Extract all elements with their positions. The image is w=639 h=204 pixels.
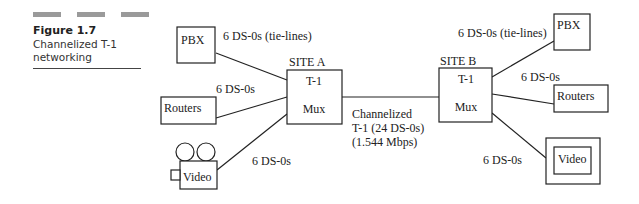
video-link-label-a: 6 DS-0s [252, 154, 291, 168]
network-diagram: PBX 6 DS-0s (tie-lines) Routers 6 DS-0s … [0, 0, 639, 204]
video-label-a: Video [183, 170, 212, 184]
trunk-label-line3: (1.544 Mbps) [352, 135, 417, 149]
link-pbx-a [216, 53, 287, 80]
routers-link-label-a: 6 DS-0s [216, 82, 255, 96]
routers-label-b: Routers [557, 89, 595, 103]
mux-a-line2: Mux [303, 102, 326, 116]
pbx-link-label-a: 6 DS-0s (tie-lines) [223, 29, 312, 43]
video-label-b: Video [558, 152, 587, 166]
mux-a-line1: T-1 [306, 74, 322, 88]
pbx-label-b: PBX [557, 18, 581, 32]
video-link-label-b: 6 DS-0s [483, 153, 522, 167]
trunk-label-line2: T-1 (24 DS-0s) [352, 121, 424, 135]
link-routers-a [216, 97, 287, 118]
mux-b-line2: Mux [455, 100, 478, 114]
pbx-link-label-b: 6 DS-0s (tie-lines) [458, 26, 547, 40]
routers-link-label-b: 6 DS-0s [521, 70, 560, 84]
site-b-label: SITE B [440, 54, 476, 68]
pbx-label-a: PBX [181, 33, 205, 47]
mux-b-line1: T-1 [458, 72, 474, 86]
link-routers-b [492, 94, 554, 104]
link-video-b [492, 113, 546, 158]
trunk-label-line1: Channelized [352, 107, 412, 121]
routers-label-a: Routers [164, 101, 202, 115]
site-a-label: SITE A [289, 55, 326, 69]
